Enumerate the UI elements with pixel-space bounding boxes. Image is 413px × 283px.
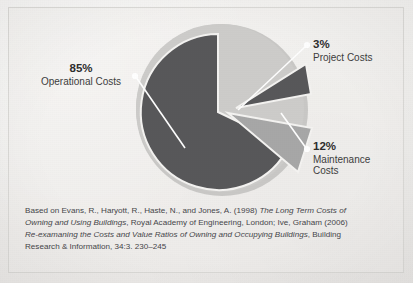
- figure-container: 85% Operational Costs 3% Project Costs 1…: [0, 0, 413, 283]
- caption-line-2: Owning and Using Buildings, Royal Academ…: [25, 217, 375, 229]
- caption-line-1: Based on Evans, R., Haryott, R., Haste, …: [25, 205, 375, 217]
- caption-line-3: Re-examaning the Costs and Value Ratios …: [25, 229, 375, 241]
- caption-line-2-roman: , Royal Academy of Engineering, London; …: [126, 218, 347, 227]
- slice-name-operational-costs: Operational Costs: [28, 76, 134, 88]
- caption-line-2-italic: Owning and Using Buildings: [25, 218, 126, 227]
- slice-name-project-costs: Project Costs: [313, 52, 409, 64]
- slice-percent-operational-costs: 85%: [28, 62, 134, 76]
- caption-line-4: Research & Information, 34:3. 230–245: [25, 241, 375, 253]
- caption-line-1-roman: Based on Evans, R., Haryott, R., Haste, …: [25, 206, 259, 215]
- slice-name-maintenance-costs-line2: Costs: [313, 165, 409, 177]
- slice-label-operational-costs: 85% Operational Costs: [28, 62, 134, 87]
- caption-line-3-roman: , Building: [308, 230, 341, 239]
- caption-line-3-italic: Re-examaning the Costs and Value Ratios …: [25, 230, 308, 239]
- slice-label-project-costs: 3% Project Costs: [313, 38, 409, 63]
- slice-label-maintenance-costs: 12% Maintenance Costs: [313, 140, 409, 177]
- caption-line-1-italic: The Long Term Costs of: [259, 206, 346, 215]
- slice-percent-project-costs: 3%: [313, 38, 409, 52]
- slice-name-maintenance-costs-line1: Maintenance: [313, 154, 409, 166]
- slice-percent-maintenance-costs: 12%: [313, 140, 409, 154]
- figure-caption: Based on Evans, R., Haryott, R., Haste, …: [25, 205, 375, 253]
- leader-dot-project-costs: [304, 42, 310, 48]
- leader-dot-maintenance-costs: [304, 146, 310, 152]
